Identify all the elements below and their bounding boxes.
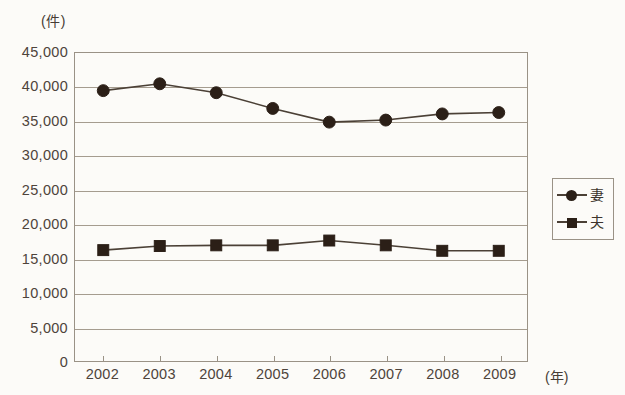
gridline: [75, 156, 527, 157]
legend-item-wife: 妻: [557, 183, 604, 207]
y-axis-tick-label: 5,000: [0, 320, 68, 336]
y-axis-tick-label: 45,000: [0, 44, 68, 60]
x-axis-tick-mark: [217, 356, 218, 362]
chart-legend: 妻 夫: [552, 178, 614, 240]
x-axis-tick-mark: [387, 356, 388, 362]
gridline: [75, 225, 527, 226]
gridline: [75, 329, 527, 330]
y-axis-tick-label: 20,000: [0, 216, 68, 232]
x-axis-tick-mark: [160, 356, 161, 362]
legend-marker-square-icon: [557, 215, 587, 229]
gridlines: [75, 53, 527, 361]
legend-marker-circle-icon: [557, 188, 587, 202]
chart-page: (件) 45,00040,00035,00030,00025,00020,000…: [0, 0, 625, 395]
y-axis-tick-label: 30,000: [0, 147, 68, 163]
gridline: [75, 260, 527, 261]
y-axis-unit-label: (件): [41, 10, 66, 30]
legend-item-husband: 夫: [557, 210, 604, 234]
y-axis-tick-label: 35,000: [0, 113, 68, 129]
x-axis-tick-mark: [501, 356, 502, 362]
legend-label-husband: 夫: [590, 215, 604, 229]
x-axis-tick-mark: [274, 356, 275, 362]
legend-label-wife: 妻: [590, 188, 604, 202]
y-axis-tick-label: 25,000: [0, 182, 68, 198]
gridline: [75, 122, 527, 123]
x-axis-tick-mark: [330, 356, 331, 362]
x-axis-unit-label: (年): [545, 366, 568, 386]
y-axis-tick-label: 40,000: [0, 78, 68, 94]
gridline: [75, 191, 527, 192]
gridline: [75, 87, 527, 88]
y-axis-tick-label: 15,000: [0, 251, 68, 267]
gridline: [75, 294, 527, 295]
y-axis-tick-label: 10,000: [0, 285, 68, 301]
y-axis-tick-label: 0: [0, 354, 68, 370]
x-axis-tick-mark: [444, 356, 445, 362]
x-axis-tick-label: 2009: [465, 366, 535, 382]
plot-area: [74, 52, 528, 362]
x-axis-tick-mark: [103, 356, 104, 362]
